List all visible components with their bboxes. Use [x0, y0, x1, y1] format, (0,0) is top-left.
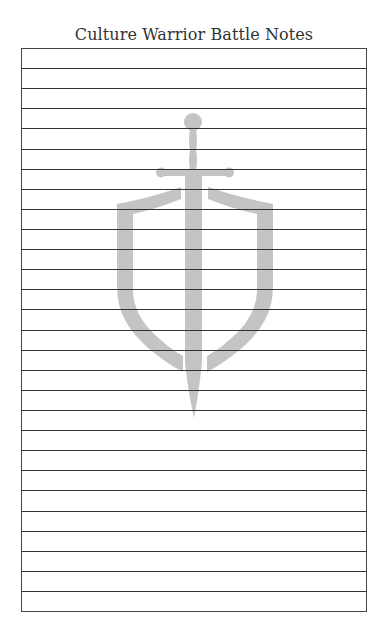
- note-line[interactable]: [22, 532, 366, 552]
- note-line[interactable]: [22, 170, 366, 190]
- note-line[interactable]: [22, 431, 366, 451]
- note-line[interactable]: [22, 150, 366, 170]
- note-line[interactable]: [22, 109, 366, 129]
- note-line[interactable]: [22, 491, 366, 511]
- note-line[interactable]: [22, 290, 366, 310]
- note-lines: [22, 49, 366, 611]
- note-line[interactable]: [22, 331, 366, 351]
- notes-sheet: [21, 48, 367, 612]
- note-line[interactable]: [22, 129, 366, 149]
- note-line[interactable]: [22, 250, 366, 270]
- note-line[interactable]: [22, 49, 366, 69]
- note-line[interactable]: [22, 391, 366, 411]
- note-line[interactable]: [22, 89, 366, 109]
- note-line[interactable]: [22, 572, 366, 592]
- note-line[interactable]: [22, 270, 366, 290]
- note-line[interactable]: [22, 411, 366, 431]
- note-line[interactable]: [22, 371, 366, 391]
- note-line[interactable]: [22, 190, 366, 210]
- note-line[interactable]: [22, 69, 366, 89]
- note-line[interactable]: [22, 592, 366, 611]
- note-line[interactable]: [22, 230, 366, 250]
- note-line[interactable]: [22, 310, 366, 330]
- note-line[interactable]: [22, 451, 366, 471]
- note-line[interactable]: [22, 552, 366, 572]
- note-line[interactable]: [22, 512, 366, 532]
- note-line[interactable]: [22, 471, 366, 491]
- note-line[interactable]: [22, 210, 366, 230]
- page-title: Culture Warrior Battle Notes: [0, 25, 388, 45]
- note-line[interactable]: [22, 351, 366, 371]
